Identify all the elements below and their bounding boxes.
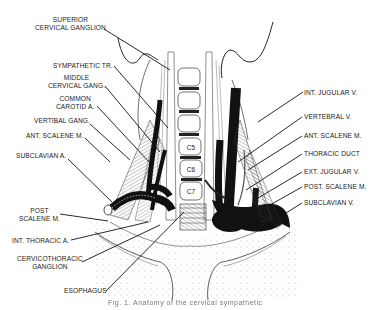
label-line: VERTEBRAL V.	[304, 113, 352, 121]
label-int-jugular-v: INT. JUGULAR V.	[304, 89, 357, 97]
label-esophagus: ESOPHAGUS	[64, 287, 107, 295]
label-line: SYMPATHETIC TR.	[53, 62, 113, 70]
label-line: POST	[19, 207, 60, 215]
label-line: POST. SCALENE M.	[304, 183, 366, 191]
label-vertebral-v: VERTEBRAL V.	[304, 113, 352, 121]
label-int-thoracic-a: INT. THORACIC A.	[12, 237, 69, 245]
label-superior-cervical-ganglion: SUPERIOR CERVICAL GANGLION	[35, 16, 106, 32]
label-cervicothoracic-ganglion: CERVICOTHORACIC GANGLION	[17, 255, 83, 271]
label-line: SCALENE M.	[19, 215, 60, 223]
label-line: SUPERIOR	[35, 16, 106, 24]
anatomy-diagram: C5 C6 C7	[0, 0, 376, 310]
label-ant-scalene-m-left: ANT. SCALENE M.	[26, 132, 84, 140]
label-subclavian-v: SUBCLAVIAN V.	[304, 199, 354, 207]
figure-caption: Fig. 1. Anatomy of the cervical sympathe…	[108, 299, 263, 306]
label-subclavian-a: SUBCLAVIAN A.	[16, 152, 66, 160]
label-thoracic-duct: THORACIC DUCT	[304, 150, 360, 158]
vertebra-c6: C6	[187, 166, 196, 173]
label-line: CAROTID A.	[56, 103, 94, 111]
label-vertibal-gang: VERTIBAL GANG.	[34, 117, 90, 125]
label-post-scalene-m-right: POST. SCALENE M.	[304, 183, 366, 191]
vertebra-c5: C5	[187, 144, 196, 151]
label-line: INT. JUGULAR V.	[304, 89, 357, 97]
label-line: CERVICAL GANG.	[48, 82, 105, 90]
label-middle-cervical-gang: MIDDLE CERVICAL GANG.	[48, 74, 105, 90]
label-line: VERTIBAL GANG.	[34, 117, 90, 125]
label-line: ANT. SCALENE M.	[26, 132, 84, 140]
label-line: GANGLION	[17, 263, 83, 271]
label-sympathetic-tr: SYMPATHETIC TR.	[53, 62, 113, 70]
label-ext-jugular-v: EXT. JUGULAR V.	[304, 168, 360, 176]
label-line: SUBCLAVIAN V.	[304, 199, 354, 207]
label-line: EXT. JUGULAR V.	[304, 168, 360, 176]
label-line: ANT. SCALENE M.	[304, 132, 362, 140]
label-line: INT. THORACIC A.	[12, 237, 69, 245]
label-line: THORACIC DUCT	[304, 150, 360, 158]
label-line: MIDDLE	[48, 74, 105, 82]
label-line: ESOPHAGUS	[64, 287, 107, 295]
label-line: COMMON	[56, 95, 94, 103]
label-line: SUBCLAVIAN A.	[16, 152, 66, 160]
label-post-scalene-m-left: POST SCALENE M.	[19, 207, 60, 223]
label-common-carotid-a: COMMON CAROTID A.	[56, 95, 94, 111]
label-ant-scalene-m-right: ANT. SCALENE M.	[304, 132, 362, 140]
label-line: CERVICOTHORACIC	[17, 255, 83, 263]
label-line: CERVICAL GANGLION	[35, 24, 106, 32]
vertebra-c7: C7	[187, 188, 196, 195]
